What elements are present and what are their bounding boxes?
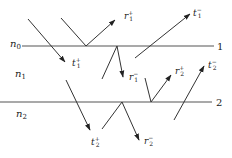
ray-t1-minus bbox=[135, 14, 190, 58]
label-r2-plus: r+2 bbox=[175, 64, 184, 77]
label-t2-plus: t+2 bbox=[91, 135, 100, 148]
interface-1-label: 1 bbox=[217, 41, 223, 52]
label-r2-minus: r−2 bbox=[144, 134, 153, 147]
ray-down-to-interface-2 bbox=[145, 78, 151, 102]
label-r1-plus: r+1 bbox=[124, 9, 133, 22]
interface-2-label: 2 bbox=[216, 97, 222, 108]
medium-n2-label: n2 bbox=[16, 108, 27, 121]
ray-r1-plus bbox=[86, 20, 115, 46]
ray-up-to-interface-1 bbox=[102, 46, 117, 79]
ray-incident-from-n1-path bbox=[61, 18, 86, 46]
label-t1-minus: t−1 bbox=[193, 6, 202, 19]
ray-t2-plus bbox=[66, 80, 90, 130]
ray-r2-minus bbox=[122, 102, 139, 140]
ray-t1-plus bbox=[28, 19, 65, 62]
ray-r1-minus bbox=[117, 46, 123, 77]
label-t1-plus: t+1 bbox=[72, 56, 81, 69]
ray-r2-plus bbox=[151, 75, 171, 102]
label-t2-minus: t−2 bbox=[208, 58, 217, 71]
label-r1-minus: r−1 bbox=[129, 70, 138, 83]
medium-n1-label: n1 bbox=[15, 68, 26, 81]
medium-n0-label: n0 bbox=[10, 38, 21, 51]
ray-diagram: 1 2 n0 n1 n2 t+1 r+1 t−1 r−1 r+2 t−2 bbox=[0, 0, 232, 158]
ray-up-to-interface-2 bbox=[102, 102, 122, 129]
